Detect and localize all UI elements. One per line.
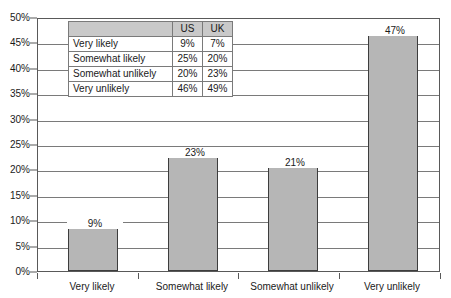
inset-row-label-2: Somewhat unlikely <box>69 67 173 82</box>
bar-value-label-very-unlikely: 47% <box>367 26 423 36</box>
inset-row-uk-1: 20% <box>203 52 233 67</box>
bar-value-label-somewhat-unlikely: 21% <box>267 158 323 168</box>
inset-table-header-us: US <box>173 22 203 37</box>
y-tick-label-0: 0% <box>16 267 30 277</box>
inset-row-uk-0: 7% <box>203 37 233 52</box>
y-tick-mark-2 <box>30 221 37 222</box>
x-tick-mark-0 <box>37 273 38 279</box>
bar-chart: 0% 5% 10% 15% 20% 25% 30% 35% 40% 45% 50… <box>0 0 451 298</box>
table-row: Somewhat likely 25% 20% <box>69 52 233 67</box>
inset-table-header-row: US UK <box>69 22 233 37</box>
inset-row-us-2: 20% <box>173 67 203 82</box>
y-tick-label-2: 10% <box>10 216 30 226</box>
table-row: Very unlikely 46% 49% <box>69 82 233 97</box>
y-tick-mark-0 <box>30 272 37 273</box>
inset-row-us-3: 46% <box>173 82 203 97</box>
x-category-label-3: Very unlikely <box>364 281 420 292</box>
y-axis: 0% 5% 10% 15% 20% 25% 30% 35% 40% 45% 50… <box>0 18 37 272</box>
y-tick-mark-4 <box>30 170 37 171</box>
y-tick-label-3: 15% <box>10 191 30 201</box>
bar-value-label-somewhat-likely: 23% <box>167 148 223 158</box>
table-row: Somewhat unlikely 20% 23% <box>69 67 233 82</box>
inset-data-table: US UK Very likely 9% 7% Somewhat likely … <box>68 21 233 97</box>
y-tick-mark-6 <box>30 119 37 120</box>
y-tick-label-1: 5% <box>16 242 30 252</box>
y-tick-label-4: 20% <box>10 165 30 175</box>
y-tick-label-5: 25% <box>10 140 30 150</box>
bar-somewhat-unlikely[interactable] <box>268 164 318 271</box>
y-tick-label-8: 40% <box>10 64 30 74</box>
bar-very-unlikely[interactable] <box>368 32 418 271</box>
inset-table-header-uk: UK <box>203 22 233 37</box>
x-tick-mark-4 <box>440 273 441 279</box>
inset-row-us-0: 9% <box>173 37 203 52</box>
table-row: Very likely 9% 7% <box>69 37 233 52</box>
y-tick-label-7: 35% <box>10 89 30 99</box>
y-tick-mark-5 <box>30 145 37 146</box>
y-tick-mark-9 <box>30 43 37 44</box>
x-category-label-0: Very likely <box>69 281 114 292</box>
bar-very-likely[interactable] <box>68 225 118 271</box>
x-tick-mark-3 <box>339 273 340 279</box>
inset-row-label-0: Very likely <box>69 37 173 52</box>
y-tick-label-10: 50% <box>10 13 30 23</box>
y-tick-label-6: 30% <box>10 115 30 125</box>
inset-row-label-1: Somewhat likely <box>69 52 173 67</box>
y-tick-mark-7 <box>30 94 37 95</box>
y-tick-mark-10 <box>30 18 37 19</box>
y-tick-mark-3 <box>30 195 37 196</box>
x-category-label-2: Somewhat unlikely <box>250 281 333 292</box>
y-tick-mark-8 <box>30 68 37 69</box>
y-tick-mark-1 <box>30 246 37 247</box>
x-category-label-1: Somewhat likely <box>156 281 228 292</box>
inset-table-header-blank <box>69 22 173 37</box>
bar-somewhat-likely[interactable] <box>168 154 218 271</box>
y-tick-label-9: 45% <box>10 38 30 48</box>
x-tick-mark-2 <box>238 273 239 279</box>
inset-row-label-3: Very unlikely <box>69 82 173 97</box>
inset-row-uk-2: 23% <box>203 67 233 82</box>
x-tick-mark-1 <box>138 273 139 279</box>
inset-row-uk-3: 49% <box>203 82 233 97</box>
inset-row-us-1: 25% <box>173 52 203 67</box>
bar-value-label-very-likely: 9% <box>67 219 123 229</box>
